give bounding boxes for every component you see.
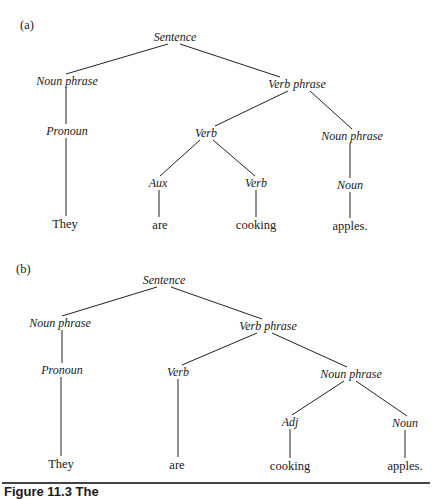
node-verb: Verb [167,365,189,379]
word-they: They [48,457,74,471]
node-noun-phrase: Noun phrase [320,367,382,381]
panel-label-b: (b) [16,262,31,277]
node-verb-phrase: Verb phrase [239,319,297,333]
word-apples: apples. [332,219,367,233]
node-adj: Adj [282,415,299,429]
node-verb: Verb [245,176,267,190]
node-aux: Aux [149,176,168,190]
node-noun: Noun [392,416,418,430]
node-noun-phrase: Noun phrase [321,129,383,143]
node-verb: Verb [195,126,217,140]
node-sentence: Sentence [143,273,186,287]
word-they: They [52,217,78,231]
node-noun-phrase: Noun phrase [29,316,91,330]
word-cooking: cooking [270,459,310,473]
word-are: are [169,458,184,472]
panel-label-a: (a) [20,18,34,33]
figure-caption: Figure 11.3 The [4,485,99,499]
word-apples: apples. [387,459,422,473]
word-are: are [152,218,167,232]
node-noun: Noun [337,178,363,192]
node-verb-phrase: Verb phrase [268,77,326,91]
node-sentence: Sentence [154,30,197,44]
word-cooking: cooking [236,218,276,232]
node-pronoun: Pronoun [46,124,88,138]
node-noun-phrase: Noun phrase [36,74,98,88]
node-pronoun: Pronoun [41,363,83,377]
